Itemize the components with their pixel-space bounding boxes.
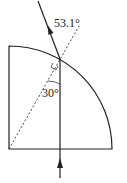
refracted-arrow-icon: [48, 25, 54, 35]
incidence-angle-label: 30°: [42, 86, 59, 100]
refraction-diagram: 53.1° 30°: [0, 0, 127, 183]
incidence-angle-arc: [48, 81, 60, 84]
incident-arrow-icon: [57, 158, 63, 168]
refraction-angle-label: 53.1°: [54, 16, 80, 30]
